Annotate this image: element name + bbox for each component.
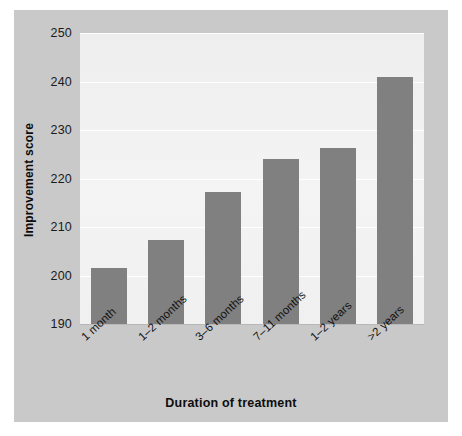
bar-slot <box>137 33 194 324</box>
y-axis-tick-label: 240 <box>51 75 72 89</box>
y-axis-ticks: 250240230220210200190 <box>0 33 76 324</box>
bar-slot <box>80 33 137 324</box>
bar-slot <box>309 33 366 324</box>
x-axis-tick-labels: 1 month1–2 months3–6 months7–11 months1–… <box>80 326 424 386</box>
bar-slot <box>252 33 309 324</box>
y-axis-tick-label: 190 <box>51 317 72 331</box>
y-axis-tick-label: 200 <box>51 269 72 283</box>
y-axis-tick-label: 230 <box>51 123 72 137</box>
x-axis-title: Duration of treatment <box>0 396 462 410</box>
y-axis-title: Improvement score <box>22 100 36 260</box>
y-axis-tick-label: 250 <box>51 26 72 40</box>
bar-series <box>80 33 424 324</box>
x-axis-line <box>80 324 424 325</box>
y-axis-tick-label: 210 <box>51 220 72 234</box>
bar <box>320 148 356 324</box>
chart-figure: 250240230220210200190 1 month1–2 months3… <box>0 0 462 436</box>
bar-slot <box>195 33 252 324</box>
bar-slot <box>367 33 424 324</box>
y-axis-tick-label: 220 <box>51 172 72 186</box>
bar <box>377 77 413 324</box>
